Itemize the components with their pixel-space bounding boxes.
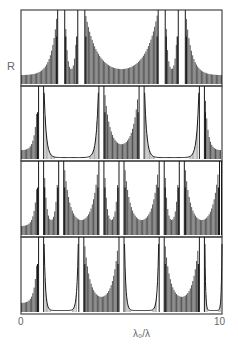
spectra-panels: [21, 10, 222, 314]
panel-3: [21, 161, 222, 237]
x-max-tick: 10: [214, 316, 225, 327]
panel-2: [21, 86, 222, 161]
reflectance-figure: [0, 0, 238, 347]
panel-4: [21, 237, 222, 314]
y-axis-label: R: [7, 60, 15, 72]
x-min-tick: 0: [18, 316, 24, 327]
panel-1: [21, 10, 222, 86]
x-axis-label: λ₀/λ: [133, 328, 150, 339]
